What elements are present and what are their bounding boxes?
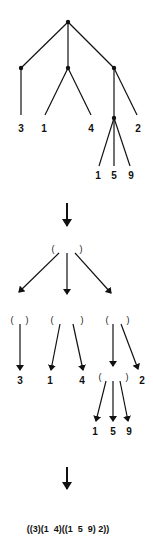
tree-diagram: 3 1 4 1 5 9 2 [18,20,141,181]
tree-leaf-label: 1 [95,170,101,181]
paren-close: ) [80,244,83,254]
tree-leaf-label: 4 [88,123,94,134]
paren-tree-arrow [73,324,83,370]
tree-edge [114,118,130,166]
paren-close: ) [26,315,29,325]
tree-leaf-label: 9 [128,170,134,181]
tree-edge [21,22,68,68]
paren-open: ( [99,372,102,382]
tree-edge [114,68,137,115]
paren-tree-leaf-label: 1 [47,375,53,386]
tree-edge [45,68,68,115]
paren-tree-arrow [51,324,60,370]
tree-edge [68,22,114,68]
diagram: 3 1 4 1 5 9 2 ( ) ( ) ( ) ( ) 3 1 4 ( ) … [0,0,153,541]
paren-close: ) [81,315,84,325]
paren-open: ( [106,315,109,325]
paren-tree-leaf-label: 3 [17,375,23,386]
paren-tree-arrow [121,324,138,369]
paren-open: ( [11,315,14,325]
result-expression: ((3)(1 4)((1 5 9) 2)) [27,524,110,534]
paren-tree-leaf-label: 2 [139,375,145,386]
tree-node [112,116,116,120]
tree-leaf-label: 3 [18,123,24,134]
paren-tree-arrow [120,381,128,421]
paren-tree-arrow [19,253,59,292]
tree-edge [68,68,91,115]
paren-tree-leaf-label: 1 [92,426,98,437]
tree-node [112,66,116,70]
tree-leaf-label: 2 [135,123,141,134]
paren-tree-leaf-label: 5 [110,426,116,437]
paren-close: ) [126,372,129,382]
paren-tree-arrow [96,381,106,421]
tree-edge [99,118,114,166]
paren-open: ( [52,244,55,254]
paren-tree-diagram: ( ) ( ) ( ) ( ) 3 1 4 ( ) 2 1 5 9 [11,244,146,437]
paren-tree-arrow [75,253,111,293]
tree-leaf-label: 5 [111,170,117,181]
tree-node [66,66,70,70]
paren-close: ) [127,315,130,325]
paren-tree-leaf-label: 9 [126,426,132,437]
tree-leaf-label: 1 [41,123,47,134]
tree-node-root [66,20,70,24]
tree-node [19,66,23,70]
paren-tree-leaf-label: 4 [79,375,85,386]
paren-open: ( [51,315,54,325]
